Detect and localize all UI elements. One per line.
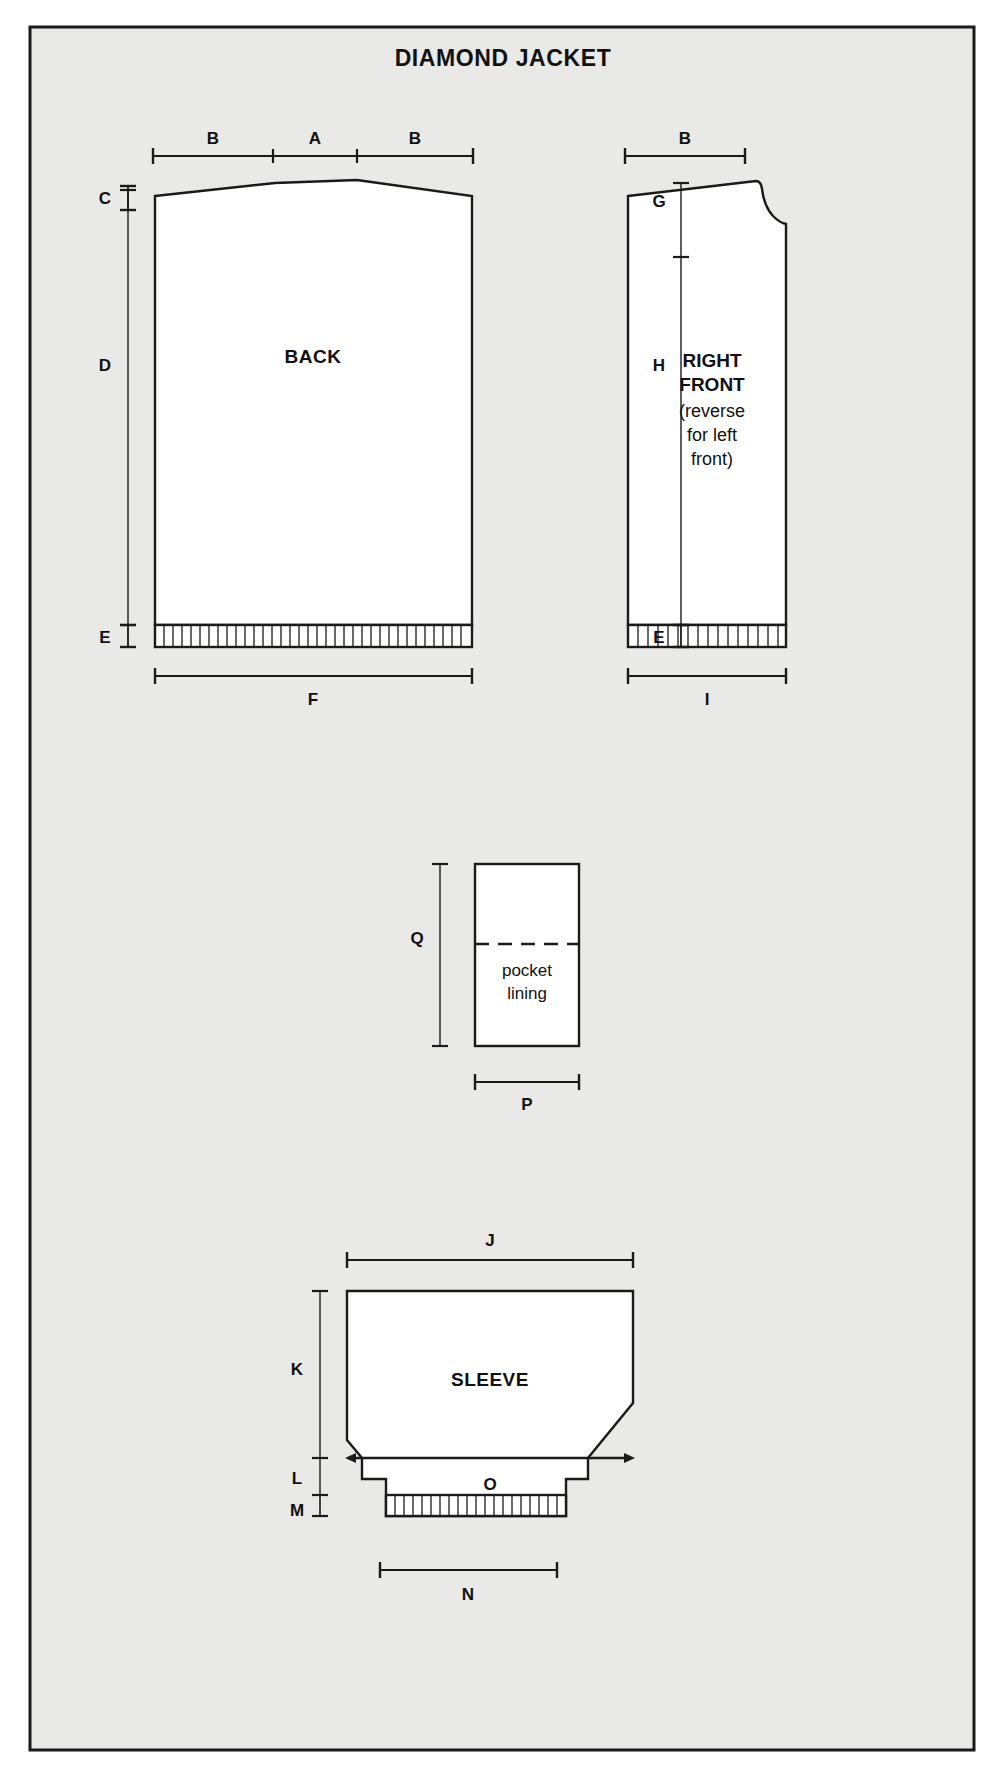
back-ribbing-band <box>155 625 472 647</box>
sleeve-cuff-ribbing-band <box>386 1495 566 1516</box>
dimension-label-E-back: E <box>99 628 110 647</box>
piece-label-back: BACK <box>285 346 342 367</box>
piece-label-right-front-line1: RIGHT <box>682 350 742 371</box>
dimension-label-C: C <box>99 189 111 208</box>
pocket-lining-piece-outline <box>475 864 579 1046</box>
dimension-label-D: D <box>99 356 111 375</box>
dimension-label-K: K <box>291 1360 304 1379</box>
piece-label-sleeve: SLEEVE <box>451 1369 529 1390</box>
dimension-label-A-back: A <box>309 129 321 148</box>
dimension-label-N: N <box>462 1585 474 1604</box>
dimension-label-I: I <box>705 690 710 709</box>
dimension-label-J: J <box>485 1231 494 1250</box>
dimension-label-H: H <box>653 356 665 375</box>
piece-label-right-front-line2: FRONT <box>679 374 745 395</box>
dimension-label-L: L <box>292 1469 302 1488</box>
piece-label-pocket-lining-line1: pocket <box>502 961 552 980</box>
diamond-jacket-schematic: DIAMOND JACKET B A B <box>0 0 1006 1788</box>
dimension-label-Q: Q <box>410 929 423 948</box>
piece-label-pocket-lining-line2: lining <box>507 984 547 1003</box>
dimension-label-B-front: B <box>679 129 691 148</box>
dimension-label-G: G <box>652 192 665 211</box>
dimension-label-E-front: E <box>653 628 664 647</box>
dimension-label-P: P <box>521 1095 532 1114</box>
page-title: DIAMOND JACKET <box>395 45 612 71</box>
piece-label-right-front-line5: front) <box>691 449 733 469</box>
pattern-schematic-page: DIAMOND JACKET B A B <box>0 0 1006 1788</box>
back-piece-outline <box>155 180 472 625</box>
right-front-ribbing-band <box>628 625 786 647</box>
dimension-label-M: M <box>290 1501 304 1520</box>
dimension-label-B-back-right: B <box>409 129 421 148</box>
piece-label-right-front-line3: (reverse <box>679 401 745 421</box>
dimension-label-B-back-left: B <box>207 129 219 148</box>
piece-label-right-front-line4: for left <box>687 425 737 445</box>
dimension-label-F: F <box>308 690 318 709</box>
dimension-label-O: O <box>483 1475 496 1494</box>
